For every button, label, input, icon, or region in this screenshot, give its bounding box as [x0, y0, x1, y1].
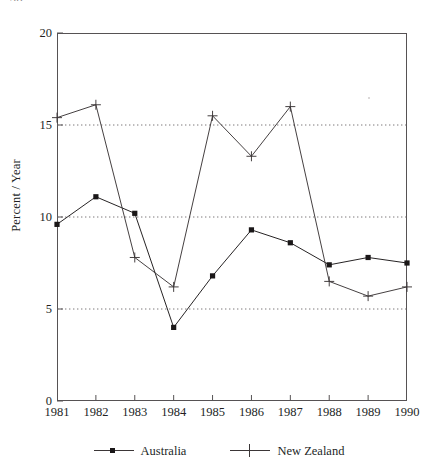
square-marker-icon	[94, 444, 134, 458]
legend-entry-australia: Australia	[94, 444, 187, 458]
data-point-new-zealand	[52, 113, 62, 123]
legend-entry-new-zealand: New Zealand	[230, 444, 344, 458]
data-point-australia	[210, 273, 215, 278]
data-point-new-zealand	[363, 291, 373, 301]
series-markers	[52, 100, 412, 330]
series-line-new-zealand	[57, 105, 407, 296]
data-point-new-zealand	[285, 102, 295, 112]
x-axis-ticks	[96, 395, 368, 401]
data-point-australia	[249, 227, 254, 232]
y-axis-ticks	[57, 33, 63, 401]
series-lines	[57, 105, 407, 328]
data-point-australia	[93, 194, 98, 199]
data-point-new-zealand	[169, 282, 179, 292]
data-point-australia	[327, 262, 332, 267]
scan-artifact-speck	[368, 97, 370, 99]
legend-label-australia: Australia	[141, 444, 187, 458]
data-point-australia	[54, 222, 59, 227]
data-point-new-zealand	[402, 282, 412, 292]
legend-label-new-zealand: New Zealand	[277, 444, 344, 458]
x-tick-label: 1990	[384, 405, 430, 420]
line-chart-figure: 05101520 Percent / Year 1981198219831984…	[0, 0, 438, 465]
data-point-new-zealand	[324, 276, 334, 286]
data-point-australia	[366, 255, 371, 260]
data-point-new-zealand	[130, 252, 140, 262]
data-point-new-zealand	[91, 100, 101, 110]
data-point-australia	[404, 260, 409, 265]
plot-area	[0, 0, 438, 465]
plus-marker-icon	[230, 444, 270, 458]
data-point-australia	[171, 325, 176, 330]
data-point-australia	[288, 240, 293, 245]
chart-legend: Australia New Zealand	[0, 440, 438, 462]
series-line-australia	[57, 197, 407, 328]
gridlines	[57, 125, 407, 309]
data-point-australia	[132, 211, 137, 216]
x-axis-tick-labels: 1981198219831984198519861987198819891990	[0, 405, 438, 425]
